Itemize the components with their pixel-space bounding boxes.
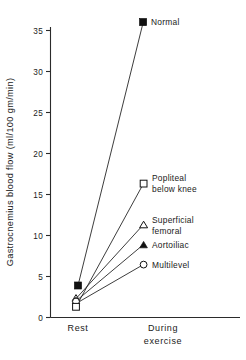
marker-aortoiliac-exercise [140, 241, 148, 247]
series-line-popliteal [76, 184, 144, 307]
x-category-label-exercise-line2: exercise [144, 336, 182, 346]
series-line-superficial-femoral [76, 225, 144, 299]
series-label-superficial-femoral-line1: Superficial [152, 215, 194, 225]
series-label-multilevel: Multilevel [152, 260, 189, 270]
y-tick-label-30: 30 [33, 68, 43, 77]
chart-figure: 0 5 10 15 20 25 30 35 Gastrocnemius bloo… [0, 0, 246, 360]
y-tick-label-10: 10 [33, 232, 43, 241]
y-tick-label-0: 0 [38, 314, 43, 323]
rest-data-markers [72, 282, 82, 310]
series-label-popliteal-line1: Popliteal [152, 173, 186, 183]
x-category-label-rest: Rest [68, 323, 89, 333]
y-axis-ticks [46, 31, 51, 318]
y-tick-label-15: 15 [33, 191, 43, 200]
marker-normal-rest [75, 282, 82, 289]
y-tick-label-25: 25 [33, 109, 43, 118]
x-category-label-exercise-line1: During [148, 323, 178, 333]
y-tick-label-35: 35 [33, 27, 43, 36]
series-label-popliteal-line2: below knee [152, 184, 197, 194]
series-line-multilevel [76, 265, 144, 304]
y-tick-label-5: 5 [38, 273, 43, 282]
blood-flow-line-chart: 0 5 10 15 20 25 30 35 Gastrocnemius bloo… [0, 0, 246, 360]
y-axis-tick-labels: 0 5 10 15 20 25 30 35 [33, 27, 43, 323]
series-label-superficial-femoral-line2: femoral [152, 226, 182, 236]
series-line-normal [78, 23, 143, 286]
marker-superficial-femoral-exercise [140, 221, 148, 228]
marker-normal-exercise [140, 19, 147, 26]
marker-popliteal-exercise [140, 180, 147, 187]
series-label-aortoiliac: Aortoiliac [152, 240, 189, 250]
y-axis-title: Gastrocnemius blood flow (ml/100 gm/min) [5, 78, 15, 267]
exercise-data-markers [140, 19, 148, 268]
series-label-normal: Normal [151, 17, 180, 27]
marker-multilevel-exercise [140, 261, 147, 268]
y-tick-label-20: 20 [33, 150, 43, 159]
marker-popliteal-rest [73, 303, 80, 310]
series-annotations: Normal Popliteal below knee Superficial … [151, 17, 197, 270]
